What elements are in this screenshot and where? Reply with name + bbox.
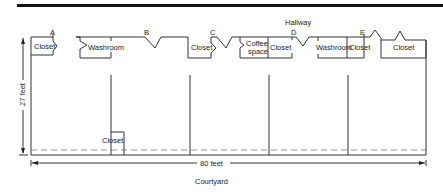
- room-label-closet-c: Closet: [191, 43, 213, 52]
- courtyard-label: Courtyard: [195, 177, 228, 186]
- room-label-closet-large: Closet: [393, 43, 415, 52]
- hallway-label: Hallway: [285, 18, 312, 27]
- room-label-closet-d: Closet: [270, 43, 292, 52]
- room-label-closet-bottom: Closet: [102, 136, 124, 145]
- room-label-space: space: [248, 47, 268, 56]
- room-label-closet-a: Closet: [34, 42, 56, 51]
- room-label-washroom-2: Washroom: [316, 43, 352, 52]
- room-label-closet-e: Closet: [349, 43, 371, 52]
- height-label: 27 feet: [18, 82, 27, 106]
- door-label-c: C: [210, 28, 216, 37]
- width-label: 80 feet: [200, 159, 224, 168]
- width-dimension: [31, 160, 426, 166]
- door-label-b: B: [144, 28, 149, 37]
- door-label-d: D: [291, 28, 297, 37]
- room-label-washroom-1: Washroom: [88, 43, 124, 52]
- floor-plan: Hallway Courtyard A B C D E Closet Washr…: [0, 0, 443, 192]
- header-rule: [17, 4, 443, 7]
